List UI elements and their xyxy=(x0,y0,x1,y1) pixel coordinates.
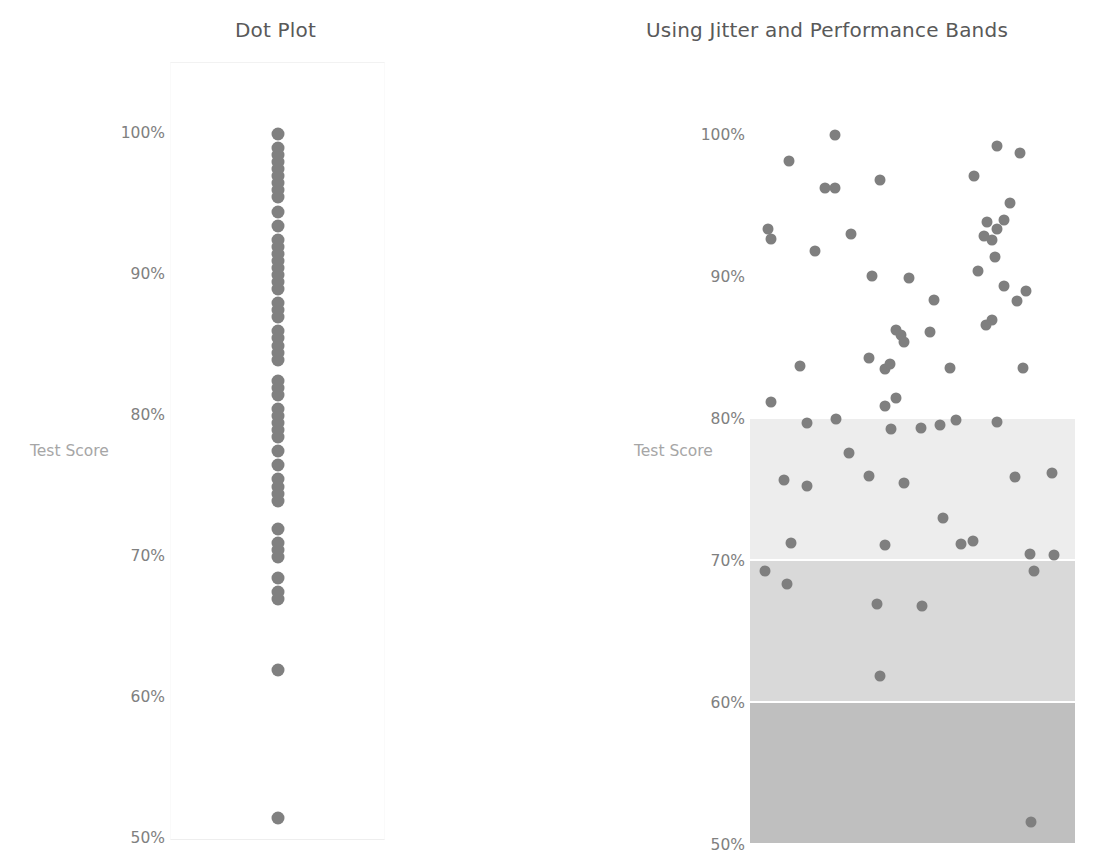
data-point xyxy=(987,235,998,246)
data-point xyxy=(871,598,882,609)
data-point xyxy=(844,448,855,459)
data-point xyxy=(992,141,1003,152)
left-chart-title: Dot Plot xyxy=(0,18,551,42)
data-point xyxy=(272,445,285,458)
data-point xyxy=(272,593,285,606)
data-point xyxy=(928,294,939,305)
right-y-axis-title: Test Score xyxy=(634,442,713,460)
data-point xyxy=(899,337,910,348)
data-point xyxy=(917,601,928,612)
data-point xyxy=(863,470,874,481)
data-point xyxy=(886,423,897,434)
data-point xyxy=(272,128,285,141)
y-tick-label: 60% xyxy=(675,694,745,712)
data-point xyxy=(938,513,949,524)
data-point xyxy=(899,477,910,488)
data-point xyxy=(766,396,777,407)
data-point xyxy=(759,565,770,576)
y-tick-label: 100% xyxy=(675,126,745,144)
data-point xyxy=(980,320,991,331)
data-point xyxy=(272,283,285,296)
data-point xyxy=(1024,548,1035,559)
data-point xyxy=(1047,467,1058,478)
data-point xyxy=(272,572,285,585)
data-point xyxy=(784,155,795,166)
y-tick-label: 60% xyxy=(75,688,165,706)
data-point xyxy=(785,537,796,548)
right-plot-area xyxy=(750,135,1075,845)
data-point xyxy=(915,422,926,433)
data-point xyxy=(998,280,1009,291)
data-point xyxy=(879,401,890,412)
data-point xyxy=(879,540,890,551)
left-chart-panel: Dot Plot 50%60%70%80%90%100% Test Score xyxy=(0,0,551,867)
data-point xyxy=(866,270,877,281)
data-point xyxy=(272,353,285,366)
data-point xyxy=(272,431,285,444)
data-point xyxy=(990,252,1001,263)
data-point xyxy=(1009,472,1020,483)
y-tick-label: 90% xyxy=(75,265,165,283)
data-point xyxy=(272,494,285,507)
data-point xyxy=(766,233,777,244)
data-point xyxy=(845,229,856,240)
right-chart-panel: Using Jitter and Performance Bands 50%60… xyxy=(551,0,1103,867)
data-point xyxy=(1021,286,1032,297)
y-tick-label: 90% xyxy=(675,268,745,286)
data-point xyxy=(1014,148,1025,159)
data-point xyxy=(891,392,902,403)
data-point xyxy=(831,414,842,425)
y-tick-label: 50% xyxy=(75,829,165,847)
y-tick-label: 80% xyxy=(75,406,165,424)
data-point xyxy=(272,191,285,204)
data-point xyxy=(272,551,285,564)
data-point xyxy=(272,459,285,472)
data-point xyxy=(782,578,793,589)
data-point xyxy=(944,362,955,373)
data-point xyxy=(992,223,1003,234)
data-point xyxy=(801,418,812,429)
right-dot-series xyxy=(750,135,1075,845)
left-plot-area xyxy=(170,62,385,840)
data-point xyxy=(1018,362,1029,373)
data-point xyxy=(272,522,285,535)
data-point xyxy=(272,311,285,324)
data-point xyxy=(829,182,840,193)
data-point xyxy=(904,273,915,284)
data-point xyxy=(779,475,790,486)
data-point xyxy=(875,671,886,682)
data-point xyxy=(272,663,285,676)
data-point xyxy=(884,358,895,369)
right-chart-title: Using Jitter and Performance Bands xyxy=(551,18,1103,42)
data-point xyxy=(272,388,285,401)
data-point xyxy=(972,266,983,277)
left-y-axis-title: Test Score xyxy=(30,442,109,460)
y-tick-label: 100% xyxy=(75,124,165,142)
data-point xyxy=(801,480,812,491)
data-point xyxy=(935,419,946,430)
y-tick-label: 70% xyxy=(75,547,165,565)
data-point xyxy=(1011,296,1022,307)
data-point xyxy=(272,811,285,824)
data-point xyxy=(969,171,980,182)
data-point xyxy=(875,175,886,186)
data-point xyxy=(1026,817,1037,828)
data-point xyxy=(829,130,840,141)
data-point xyxy=(1029,565,1040,576)
data-point xyxy=(272,219,285,232)
y-tick-label: 70% xyxy=(675,552,745,570)
data-point xyxy=(925,327,936,338)
y-tick-label: 50% xyxy=(675,836,745,854)
data-point xyxy=(810,246,821,257)
data-point xyxy=(795,361,806,372)
data-point xyxy=(863,352,874,363)
data-point xyxy=(992,416,1003,427)
data-point xyxy=(272,205,285,218)
data-point xyxy=(967,536,978,547)
y-tick-label: 80% xyxy=(675,410,745,428)
data-point xyxy=(956,538,967,549)
data-point xyxy=(951,415,962,426)
data-point xyxy=(1048,550,1059,561)
data-point xyxy=(1005,198,1016,209)
